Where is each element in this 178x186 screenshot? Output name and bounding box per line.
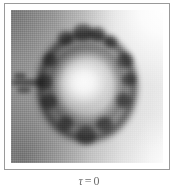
fractal-bulb (116, 93, 131, 108)
figure-root: τ=0 (0, 0, 178, 186)
fractal-bulb (122, 73, 136, 87)
caption-value: 0 (94, 174, 100, 186)
ring-interior-highlight (51, 51, 119, 118)
fractal-boundary-ring (11, 10, 163, 163)
caption-equals: = (83, 174, 94, 186)
fractal-bulb (58, 116, 73, 131)
fractal-bulb (43, 53, 57, 67)
fractal-bulb (76, 126, 96, 144)
fractal-bulb (90, 27, 105, 41)
figure-caption: τ=0 (0, 174, 178, 186)
fractal-image (11, 10, 163, 163)
fractal-bulb (117, 53, 132, 68)
figure-frame (4, 3, 170, 170)
fractal-tendril (17, 87, 31, 93)
fractal-tendril (14, 73, 26, 79)
